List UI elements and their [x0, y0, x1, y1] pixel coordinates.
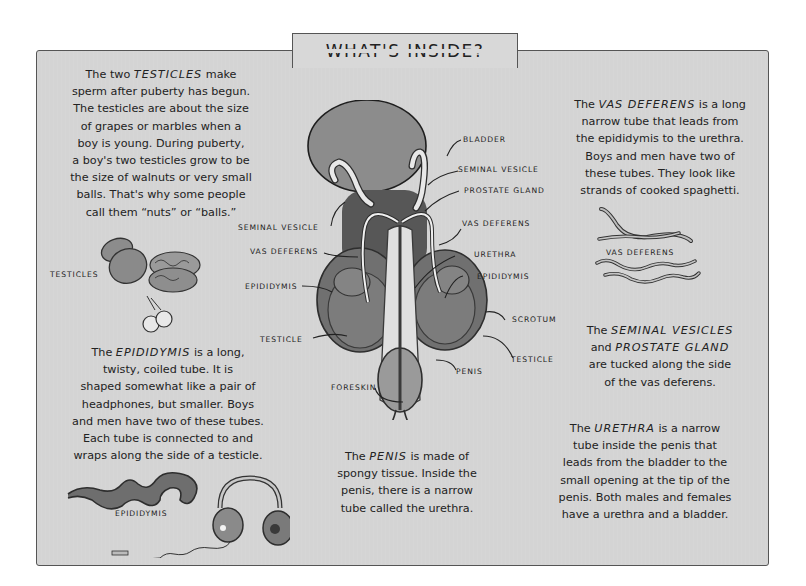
label-arrows [0, 0, 806, 586]
label-seminal-vesicle-left: SEMINAL VESICLE [238, 223, 319, 232]
label-testicle-right: TESTICLE [511, 355, 554, 364]
label-foreskin: FORESKIN [331, 383, 376, 392]
label-bladder: BLADDER [463, 135, 506, 144]
label-prostate-gland: PROSTATE GLAND [464, 186, 545, 195]
label-urethra: URETHRA [474, 250, 516, 259]
label-seminal-vesicle-right: SEMINAL VESICLE [458, 165, 539, 174]
label-scrotum: SCROTUM [512, 315, 556, 324]
label-epididymis-left: EPIDIDYMIS [245, 282, 297, 291]
label-testicle-left: TESTICLE [260, 335, 303, 344]
label-epididymis-right: EPIDIDYMIS [477, 272, 529, 281]
label-vas-deferens-left: VAS DEFERENS [250, 247, 318, 256]
title-tab-join [293, 49, 516, 53]
label-vas-deferens-right: VAS DEFERENS [462, 219, 530, 228]
label-penis: PENIS [456, 367, 483, 376]
